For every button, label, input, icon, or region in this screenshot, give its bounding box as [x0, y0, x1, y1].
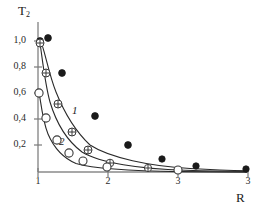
x-axis-title: R [236, 191, 245, 204]
y-tick-label-0-4: 0,4 [2, 113, 26, 123]
curve-annotation-2: 2 [59, 136, 65, 147]
x-tick-label-2: 2 [101, 176, 115, 186]
x-tick-label-3-right: 3 [241, 176, 255, 186]
y-axis-title: T2 [18, 4, 30, 17]
y-axis-title-text: T [18, 3, 26, 18]
y-tick-label-0-8: 0,8 [2, 61, 26, 71]
markers-series-2 [36, 39, 152, 172]
y-tick-label-1-0: 1,0 [2, 35, 26, 45]
y-tick-label-0-2: 0,2 [2, 139, 26, 149]
y-axis-title-subscript: 2 [26, 10, 30, 19]
x-tick-label-1: 1 [31, 176, 45, 186]
chart-figure: T2 R 1,0 0,8 0,6 0,4 0,2 1 2 3 3 1 2 [0, 0, 258, 213]
x-tick-label-3: 3 [171, 176, 185, 186]
y-tick-label-0-6: 0,6 [2, 87, 26, 97]
curve-annotation-1: 1 [72, 105, 78, 116]
